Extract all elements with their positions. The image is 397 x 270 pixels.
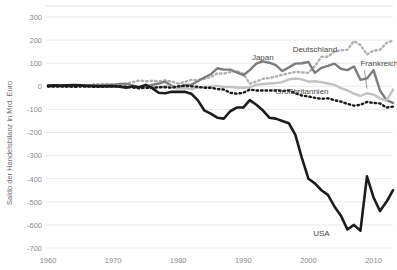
- y-tick-label: -600: [27, 221, 42, 230]
- y-axis-tick-labels: 3002001000-100-200-300-400-500-600-700: [27, 13, 42, 253]
- x-tick-label: 2010: [365, 256, 382, 265]
- x-tick-label: 1980: [170, 256, 187, 265]
- y-tick-label: -300: [27, 151, 42, 160]
- x-axis-tick-labels: 196019701980199020002010: [40, 256, 382, 265]
- series-line-usa: [48, 85, 393, 231]
- chart-canvas: 3002001000-100-200-300-400-500-600-700 1…: [0, 0, 397, 270]
- series-label-japan: Japan: [252, 53, 274, 62]
- y-tick-label: 200: [29, 36, 42, 45]
- series-label-usa: USA: [313, 229, 330, 238]
- y-tick-label: -100: [27, 105, 42, 114]
- y-tick-label: 300: [29, 13, 42, 22]
- series-label-grobritannien: Großbritannien: [275, 87, 328, 96]
- y-tick-label: -400: [27, 175, 42, 184]
- x-tick-label: 1990: [235, 256, 252, 265]
- y-tick-label: -200: [27, 128, 42, 137]
- y-tick-label: -700: [27, 244, 42, 253]
- y-axis-title: Saldo der Handelsbilanz in Mrd. Euro: [5, 81, 14, 205]
- trade-balance-chart: 3002001000-100-200-300-400-500-600-700 1…: [0, 0, 397, 270]
- y-tick-label: 100: [29, 59, 42, 68]
- gridlines: [46, 6, 393, 248]
- series-line-japan: [48, 61, 393, 103]
- series-label-deutschland: Deutschland: [293, 45, 337, 54]
- x-tick-label: 2000: [300, 256, 317, 265]
- x-tick-label: 1970: [105, 256, 122, 265]
- y-tick-label: 0: [38, 82, 42, 91]
- series-label-frankreich: Frankreich: [360, 59, 397, 68]
- x-tick-label: 1960: [40, 256, 57, 265]
- y-tick-label: -500: [27, 198, 42, 207]
